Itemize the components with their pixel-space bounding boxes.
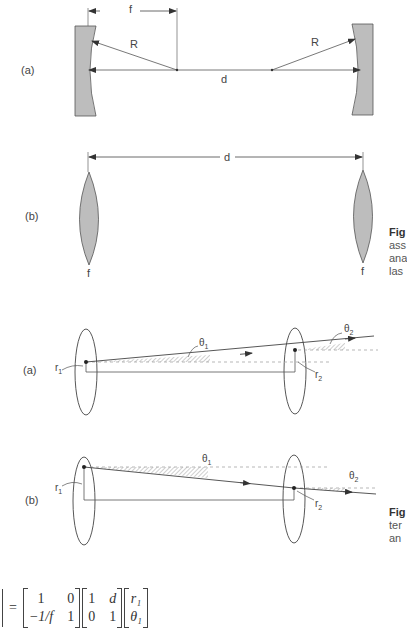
ray-panel-a-label: (a) [23,364,36,376]
ray-vector: r₁ θ₁ [130,591,142,625]
r2-label-a: r2 [315,369,322,382]
radius-left-label: R [130,38,138,50]
right-concave-mirror [352,24,373,115]
equals-sign: = [9,600,17,616]
distance-label: d [221,73,227,85]
left-concave-mirror [75,26,96,116]
theta2-label-b: θ2 [349,470,358,483]
theta2-label-a: θ2 [344,323,353,336]
r1-label-a: r1 [55,362,62,375]
theta1-label-a: θ1 [199,337,208,350]
lens-left-focal-label: f [87,267,90,279]
right-thin-lens [354,170,373,263]
caption-top: Fig ass ana las [389,226,407,278]
focal-length-label: f [129,3,132,15]
panel-b-label: (b) [25,210,38,222]
transfer-matrix-equation: = 10 −1/f1 1d 01 r₁ θ₁ [0,586,149,630]
caption-bottom: Fig ter an [389,506,406,545]
distance-label-b: d [222,151,232,163]
lens-right-focal-label: f [361,265,364,277]
ray-diagram-a [62,328,378,415]
ray-panel-b-label: (b) [25,494,38,506]
radius-right-label: R [311,36,319,48]
r1-label-b: r1 [55,482,62,495]
r2-label-b: r2 [315,498,322,511]
propagation-matrix: 1d 01 [88,591,116,625]
theta1-label-b: θ1 [202,453,211,466]
ray-diagram-b [62,455,378,545]
left-thin-lens [80,172,99,265]
panel-a-label: (a) [21,64,34,76]
lens-matrix: 10 −1/f1 [29,591,74,625]
